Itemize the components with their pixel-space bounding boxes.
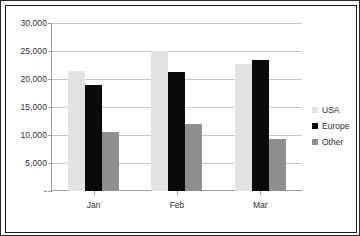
y-axis-tick-label: -	[44, 186, 47, 196]
legend-label: USA	[322, 105, 339, 115]
bar-europe-jan[interactable]	[85, 85, 102, 191]
chart-outer-frame: 30,00025,00020,00015,00010,0005,000- Jan…	[0, 0, 360, 236]
y-axis-tick-label: 5,000	[25, 158, 47, 168]
x-axis-tick	[177, 191, 178, 195]
bar-other-mar[interactable]	[269, 139, 286, 191]
x-axis-label-feb: Feb	[170, 200, 185, 210]
legend-swatch-icon	[312, 139, 318, 145]
legend-item-other[interactable]: Other	[312, 134, 358, 150]
y-axis-tick-label: 10,000	[20, 130, 47, 140]
bar-europe-mar[interactable]	[252, 60, 269, 191]
x-axis-label-jan: Jan	[87, 200, 101, 210]
legend-swatch-icon	[312, 123, 318, 129]
bar-group	[52, 23, 135, 191]
y-axis-tick-label: 15,000	[20, 102, 47, 112]
x-axis-tick	[260, 191, 261, 195]
bar-group	[135, 23, 218, 191]
legend-swatch-icon	[312, 107, 318, 113]
legend-label: Other	[322, 137, 343, 147]
bar-other-jan[interactable]	[102, 132, 119, 191]
y-axis-tick-label: 30,000	[20, 18, 47, 28]
y-axis-tick	[48, 191, 52, 192]
chart-inner-frame: 30,00025,00020,00015,00010,0005,000- Jan…	[5, 5, 357, 233]
bar-other-feb[interactable]	[185, 124, 202, 191]
y-axis-tick-label: 25,000	[20, 46, 47, 56]
legend-item-usa[interactable]: USA	[312, 102, 358, 118]
legend-item-europe[interactable]: Europe	[312, 118, 358, 134]
legend-label: Europe	[322, 121, 349, 131]
bar-usa-jan[interactable]	[68, 71, 85, 191]
y-axis-tick-label: 20,000	[20, 74, 47, 84]
bar-europe-feb[interactable]	[168, 72, 185, 191]
chart-legend: USAEuropeOther	[312, 102, 358, 150]
bar-usa-mar[interactable]	[235, 64, 252, 191]
bar-group	[219, 23, 302, 191]
bar-series-layer	[52, 23, 302, 191]
x-axis-label-mar: Mar	[253, 200, 268, 210]
bar-usa-feb[interactable]	[151, 51, 168, 191]
x-axis-tick	[94, 191, 95, 195]
plot-area: 30,00025,00020,00015,00010,0005,000- Jan…	[51, 23, 301, 191]
